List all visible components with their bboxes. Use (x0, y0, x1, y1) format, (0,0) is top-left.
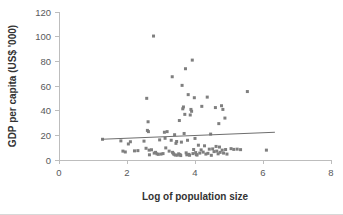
data-point (187, 93, 190, 96)
data-point (236, 148, 239, 151)
x-axis-tick-label: 0 (56, 167, 61, 178)
x-axis-tick-label: 2 (124, 167, 129, 178)
data-point (129, 140, 132, 143)
data-point (218, 146, 221, 149)
data-point (186, 139, 189, 142)
data-point (215, 150, 218, 153)
data-point (148, 153, 151, 156)
data-point (143, 140, 146, 143)
data-point (162, 152, 165, 155)
data-point (220, 104, 223, 107)
data-point (232, 148, 235, 151)
data-point (194, 137, 197, 140)
data-point (215, 145, 218, 148)
data-point (224, 148, 227, 151)
data-point (136, 149, 139, 152)
y-axis-tick-label: 80 (40, 56, 51, 67)
data-point (180, 141, 183, 144)
data-point (168, 150, 171, 153)
data-point (163, 131, 166, 134)
data-point (188, 154, 191, 157)
data-point (124, 150, 127, 153)
data-point (158, 138, 161, 141)
data-point (119, 139, 122, 142)
data-point (171, 75, 174, 78)
data-point (147, 120, 150, 123)
trend-line-group (102, 132, 275, 139)
y-axis-tick-label: 60 (40, 81, 51, 92)
data-point (210, 154, 213, 157)
data-point (214, 106, 217, 109)
axes-group (55, 12, 331, 164)
data-point (203, 144, 206, 147)
data-point (189, 113, 192, 116)
y-axis-tick-label: 40 (40, 105, 51, 116)
data-point (145, 97, 148, 100)
data-point (221, 108, 224, 111)
data-point (181, 84, 184, 87)
data-point (221, 149, 224, 152)
axis-labels-group: 02040608010012002468Log of population si… (7, 7, 334, 203)
data-point (206, 96, 209, 99)
data-point (183, 113, 186, 116)
data-point (145, 147, 148, 150)
y-axis-title: GDP per capita (US$ '000) (7, 25, 18, 147)
data-point (178, 119, 181, 122)
data-point (173, 133, 176, 136)
plot-area: 02040608010012002468Log of population si… (0, 0, 343, 215)
x-axis-title: Log of population size (142, 191, 249, 202)
data-point (164, 146, 167, 149)
data-point (179, 154, 182, 157)
y-axis-tick-label: 120 (35, 7, 51, 18)
data-point (192, 148, 195, 151)
data-point (202, 151, 205, 154)
data-point (265, 149, 268, 152)
y-axis-tick-label: 0 (46, 155, 51, 166)
data-point (200, 105, 203, 108)
data-point (222, 152, 225, 155)
data-point (166, 130, 169, 133)
data-point (197, 144, 200, 147)
data-point (225, 153, 228, 156)
data-point (150, 148, 153, 151)
data-point (191, 152, 194, 155)
data-point (211, 147, 214, 150)
data-point (193, 96, 196, 99)
data-point (175, 140, 178, 143)
data-point (157, 153, 160, 156)
scatter-chart-figure: 02040608010012002468Log of population si… (0, 0, 343, 215)
data-point (198, 152, 201, 155)
data-point (223, 117, 226, 120)
data-point (133, 149, 136, 152)
x-axis-tick-label: 4 (192, 167, 197, 178)
data-point (206, 152, 209, 155)
data-point (217, 122, 220, 125)
y-axis-tick-label: 20 (40, 130, 51, 141)
y-axis-tick-label: 100 (35, 31, 51, 42)
data-point (246, 90, 249, 93)
data-point (213, 150, 216, 153)
data-point (184, 67, 187, 70)
data-point (190, 110, 193, 113)
x-axis-tick-label: 8 (328, 167, 333, 178)
trend-line (102, 132, 275, 139)
data-point (147, 130, 150, 133)
data-point (196, 154, 199, 157)
data-point (208, 148, 211, 151)
x-axis-tick-label: 6 (260, 167, 265, 178)
data-point (191, 59, 194, 62)
data-point (183, 132, 186, 135)
data-point (182, 105, 185, 108)
data-point (170, 139, 173, 142)
data-point (239, 148, 242, 151)
data-point (230, 147, 233, 150)
data-point (152, 35, 155, 38)
